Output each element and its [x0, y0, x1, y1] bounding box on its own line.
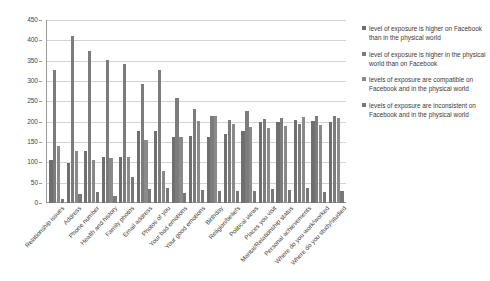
y-tick-label: 150	[27, 139, 38, 146]
bar	[106, 60, 109, 203]
bar-group	[83, 20, 100, 203]
bar	[123, 64, 126, 203]
y-tick-mark	[39, 61, 42, 62]
y-tick-mark	[39, 40, 42, 41]
bar	[183, 193, 186, 203]
bar	[210, 116, 213, 203]
bar	[49, 160, 52, 203]
bar	[259, 122, 262, 203]
bar	[158, 70, 161, 203]
y-tick-mark	[39, 162, 42, 163]
bar	[245, 111, 248, 203]
y-tick-label: 0	[34, 200, 38, 207]
bar	[96, 192, 99, 203]
bar-group	[328, 20, 345, 203]
bar	[137, 131, 140, 203]
bar	[241, 131, 244, 203]
legend-item: levels of exposure are inconsistent on F…	[362, 101, 486, 120]
bar	[127, 157, 130, 203]
legend-swatch-icon	[362, 52, 366, 56]
bar	[315, 116, 318, 203]
bar-group	[100, 20, 117, 203]
legend-item: level of exposure is higher in the physi…	[362, 50, 486, 69]
bar	[75, 151, 78, 203]
y-tick-label: 300	[27, 78, 38, 85]
y-tick-mark	[39, 142, 42, 143]
y-tick-label: 400	[27, 37, 38, 44]
y-tick-mark	[39, 203, 42, 204]
bar	[57, 146, 60, 203]
bar	[218, 191, 221, 203]
bar	[302, 117, 305, 203]
bar	[193, 109, 196, 203]
y-tick-label: 450	[27, 17, 38, 24]
y-tick-mark	[39, 122, 42, 123]
bar-group	[170, 20, 187, 203]
bar	[267, 128, 270, 203]
legend-item: levels of exposure are compatible on Fac…	[362, 75, 486, 94]
legend-swatch-icon	[362, 77, 366, 81]
legend-label: levels of exposure are compatible on Fac…	[369, 75, 486, 94]
chart-legend: level of exposure is higher on Facebook …	[362, 24, 486, 126]
plot-area	[46, 20, 346, 203]
bar	[207, 137, 210, 203]
bar-group	[223, 20, 240, 203]
bar	[166, 188, 169, 203]
bar	[197, 121, 200, 203]
bar	[294, 120, 297, 203]
bar-group	[65, 20, 82, 203]
bar	[319, 125, 322, 203]
bar	[228, 120, 231, 203]
bar	[329, 122, 332, 203]
bar	[298, 124, 301, 203]
y-tick-mark	[39, 20, 42, 21]
bar	[71, 36, 74, 203]
bar	[154, 131, 157, 203]
bar	[162, 171, 165, 203]
bar	[249, 127, 252, 203]
bar	[263, 119, 266, 203]
y-tick-label: 50	[31, 179, 38, 186]
y-tick-mark	[39, 101, 42, 102]
y-tick-label: 250	[27, 98, 38, 105]
bar	[284, 126, 287, 203]
bar-group	[258, 20, 275, 203]
legend-label: level of exposure is higher on Facebook …	[369, 24, 486, 43]
x-axis-labels: Relationship issuesAddressPhone numberHe…	[46, 205, 346, 281]
bar	[67, 163, 70, 203]
bar	[102, 157, 105, 203]
bar-group	[310, 20, 327, 203]
bar	[131, 177, 134, 203]
y-axis-labels: 050100150200250300350400450	[0, 20, 42, 203]
bar	[311, 121, 314, 203]
bar	[340, 191, 343, 203]
bar	[113, 196, 116, 203]
bar	[201, 190, 204, 203]
y-tick-mark	[39, 183, 42, 184]
bar	[61, 199, 64, 203]
bar	[144, 140, 147, 203]
x-tick-label: Relationship issues	[24, 205, 66, 249]
bar	[175, 98, 178, 203]
bar	[84, 151, 87, 203]
bar	[179, 137, 182, 203]
y-tick-label: 100	[27, 159, 38, 166]
bar	[288, 190, 291, 203]
bar	[280, 118, 283, 203]
bar	[333, 116, 336, 203]
y-tick-label: 350	[27, 57, 38, 64]
bar	[189, 136, 192, 203]
bar-group	[135, 20, 152, 203]
legend-label: levels of exposure are inconsistent on F…	[369, 101, 486, 120]
bar	[232, 124, 235, 203]
bar	[78, 194, 81, 203]
bar-chart: 050100150200250300350400450 Relationship…	[0, 0, 490, 281]
y-tick-label: 200	[27, 118, 38, 125]
bar-group	[240, 20, 257, 203]
bar	[119, 157, 122, 203]
bar	[148, 189, 151, 203]
bar	[224, 134, 227, 203]
bar	[306, 188, 309, 203]
bar-group	[275, 20, 292, 203]
bar	[141, 84, 144, 203]
